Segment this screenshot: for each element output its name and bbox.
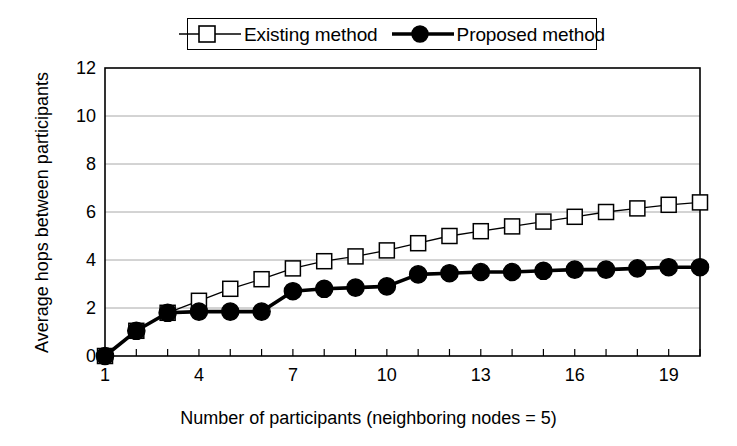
x-tick-label: 10 xyxy=(362,366,412,384)
y-tick-label: 8 xyxy=(58,155,96,173)
y-tick-label: 2 xyxy=(58,299,96,317)
x-tick-label: 19 xyxy=(644,366,694,384)
data-series xyxy=(96,195,708,365)
x-axis-ticks xyxy=(105,349,700,356)
legend-entry-proposed: Proposed method xyxy=(392,23,606,45)
y-tick-label: 12 xyxy=(58,59,96,77)
x-tick-label: 4 xyxy=(174,366,224,384)
x-tick-label: 16 xyxy=(550,366,600,384)
x-tick-label: 1 xyxy=(80,366,130,384)
y-tick-label: 4 xyxy=(58,251,96,269)
legend-label-existing: Existing method xyxy=(244,25,378,44)
legend-label-proposed: Proposed method xyxy=(457,25,606,44)
legend-marker-open-square xyxy=(179,23,241,45)
y-tick-label: 6 xyxy=(58,203,96,221)
chart-figure: Existing method Proposed method 02468101… xyxy=(0,0,737,446)
x-axis-title: Number of participants (neighboring node… xyxy=(0,408,737,429)
y-tick-label: 10 xyxy=(58,107,96,125)
x-tick-label: 13 xyxy=(456,366,506,384)
y-tick-label: 0 xyxy=(58,347,96,365)
x-tick-label: 7 xyxy=(268,366,318,384)
y-axis-title: Average hops between participants xyxy=(32,48,53,378)
legend-entry-existing: Existing method xyxy=(179,23,378,45)
legend-marker-filled-circle xyxy=(392,23,454,45)
chart-legend: Existing method Proposed method xyxy=(187,18,597,50)
